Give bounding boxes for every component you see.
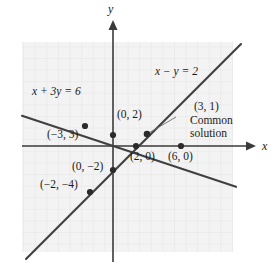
common-solution-annotation: Common solution — [190, 114, 233, 140]
point-label-3-1: (3, 1) — [194, 100, 219, 113]
point-marker-intersection-3-1 — [144, 131, 151, 138]
graph-figure: x y x + 3y = 6 x − y = 2 (−3, 3) (0, 2) … — [0, 0, 278, 272]
coordinate-plane — [0, 0, 278, 272]
y-axis-label: y — [108, 3, 113, 16]
point-marker-neg3-3 — [82, 123, 88, 129]
point-marker-neg2-neg4 — [87, 189, 93, 195]
point-label-2-0: (2, 0) — [130, 150, 155, 163]
point-marker-2-0 — [133, 143, 139, 149]
equation-label-x-minus-y: x − y = 2 — [155, 65, 198, 78]
common-solution-line-1: Common — [190, 114, 233, 127]
y-axis-arrowhead — [109, 20, 118, 30]
point-label-neg3-3: (−3, 3) — [47, 128, 78, 141]
equation-label-x-plus-3y: x + 3y = 6 — [32, 85, 81, 98]
point-label-0-2: (0, 2) — [117, 108, 142, 121]
point-marker-0-neg2 — [110, 167, 116, 173]
x-axis-arrowhead — [246, 142, 256, 151]
x-axis-label: x — [262, 140, 267, 153]
point-label-6-0: (6, 0) — [168, 150, 193, 163]
point-marker-0-2 — [110, 132, 116, 138]
point-label-neg2-neg4: (−2, −4) — [40, 178, 78, 191]
point-marker-6-0 — [178, 143, 184, 149]
common-solution-line-2: solution — [190, 127, 233, 140]
grid-background — [22, 42, 233, 252]
point-label-0-neg2: (0, −2) — [72, 160, 103, 173]
